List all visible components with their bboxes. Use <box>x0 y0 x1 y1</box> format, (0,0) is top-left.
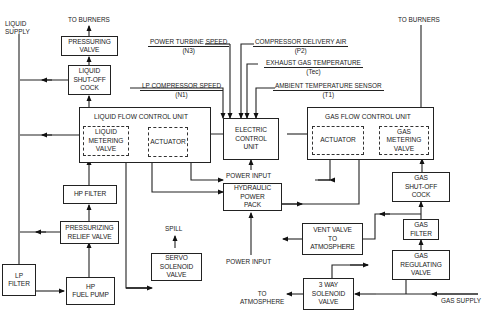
vent-valve-block: VENT VALVE TO ATMOSPHERE <box>302 223 363 255</box>
signal-code: (T1) <box>273 91 384 99</box>
signal-name: COMPRESSOR DELIVERY AIR <box>253 38 348 47</box>
gas-shutoff-cock-block: GAS SHUT-OFF COCK <box>392 172 450 202</box>
signal-name: AMBIENT TEMPERATURE SENSOR <box>273 82 384 91</box>
to-atmosphere-label: TO ATMOSPHERE <box>240 290 284 306</box>
servo-solenoid-valve-block: SERVO SOLENOID VALVE <box>151 253 202 281</box>
gas-supply-label: GAS SUPPLY <box>441 297 481 305</box>
gas-metering-valve-block: GAS METERING VALVE <box>379 126 429 155</box>
to-burners-liquid-label: TO BURNERS <box>68 16 110 24</box>
pressurizing-relief-valve-block: PRESSURIZING RELIEF VALVE <box>60 221 119 244</box>
signal-code: (Tec) <box>264 68 363 76</box>
gas-filter-block: GAS FILTER <box>403 219 439 240</box>
gas-actuator-block: ACTUATOR <box>312 126 364 155</box>
lp-filter-block: LP FILTER <box>2 264 36 296</box>
signal-name: POWER TURBINE SPEED <box>148 38 229 47</box>
spill-label: SPILL <box>165 225 182 233</box>
hp-fuel-pump-block: HP FUEL PUMP <box>66 277 115 305</box>
signal-name: EXHAUST GAS TEMPERATURE <box>264 59 363 68</box>
signal-code: (P2) <box>253 47 348 55</box>
liquid-flow-control-unit-title: LIQUID FLOW CONTROL UNIT <box>94 113 188 120</box>
to-burners-gas-label: TO BURNERS <box>398 16 440 24</box>
liquid-supply-label: LIQUID SUPPLY <box>5 20 30 36</box>
signal-code: (N1) <box>140 91 223 99</box>
liquid-metering-valve-block: LIQUID METERING VALVE <box>83 126 129 156</box>
liquid-shutoff-cock-block: LIQUID SHUT-OFF COCK <box>68 65 111 95</box>
liquid-actuator-block: ACTUATOR <box>148 127 188 157</box>
pressuring-valve-block: PRESSURING VALVE <box>61 36 118 56</box>
hp-filter-block: HP FILTER <box>63 185 117 204</box>
gas-regulating-valve-block: GAS REGULATING VALVE <box>392 250 450 280</box>
signal-name: LP COMPRESSOR SPEED <box>140 82 223 91</box>
power-input-ecu-label: POWER INPUT <box>226 172 271 180</box>
signal-compressor-delivery-air: COMPRESSOR DELIVERY AIR (P2) <box>253 38 348 55</box>
power-input-hpp-label: POWER INPUT <box>226 258 271 266</box>
three-way-solenoid-valve-block: 3 WAY SOLENOID VALVE <box>303 278 354 310</box>
signal-exhaust-gas-temperature: EXHAUST GAS TEMPERATURE (Tec) <box>264 59 363 76</box>
hydraulic-power-pack-block: HYDRAULIC POWER PACK <box>223 183 282 211</box>
signal-ambient-temperature-sensor: AMBIENT TEMPERATURE SENSOR (T1) <box>273 82 384 99</box>
signal-code: (N3) <box>148 47 229 55</box>
gas-flow-control-unit-title: GAS FLOW CONTROL UNIT <box>325 113 411 120</box>
signal-power-turbine-speed: POWER TURBINE SPEED (N3) <box>148 38 229 55</box>
electric-control-unit-block: ELECTRIC CONTROL UNIT <box>223 118 279 160</box>
signal-lp-compressor-speed: LP COMPRESSOR SPEED (N1) <box>140 82 223 99</box>
